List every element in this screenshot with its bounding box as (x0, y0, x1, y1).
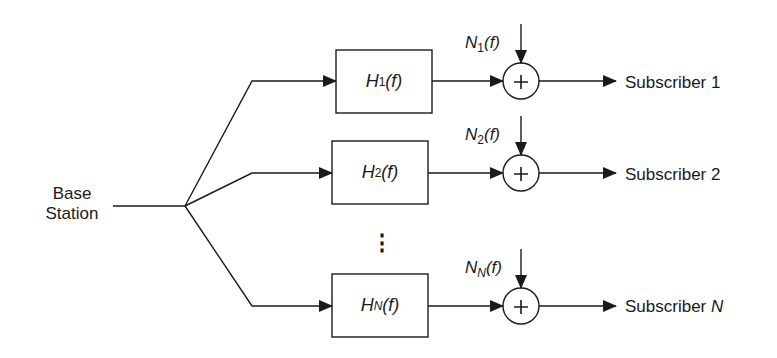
subscriber-label-1: Subscriber 1 (625, 73, 720, 93)
noise-label-2: N2(f) (465, 125, 500, 145)
noise-label-1: N1(f) (465, 33, 500, 53)
branch-line-1 (185, 81, 336, 206)
branch-line-2 (185, 173, 332, 206)
plus-icon (514, 300, 528, 314)
noise-label-n: NN(f) (465, 258, 502, 278)
filter-label-2: H2(f) (332, 141, 428, 204)
filter-label-1: H1(f) (336, 50, 432, 113)
subscriber-label-2: Subscriber 2 (625, 165, 720, 185)
base-station-label-line2: Station (32, 204, 112, 224)
subscriber-label-n: Subscriber N (625, 297, 723, 317)
ellipsis-vertical: ⋮ (371, 233, 393, 253)
branch-line-n (185, 206, 332, 306)
base-station-label: Base Station (32, 184, 112, 224)
filter-label-n: HN(f) (332, 274, 428, 337)
plus-icon (514, 167, 528, 181)
base-station-label-line1: Base (32, 184, 112, 204)
plus-icon (514, 75, 528, 89)
